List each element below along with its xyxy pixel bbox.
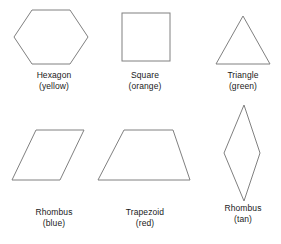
shape-color-trapezoid: (red) (93, 218, 197, 229)
shape-name-square: Square (93, 70, 197, 81)
shape-rhombus-blue (10, 128, 86, 182)
narrow-diamond-outline-icon (222, 103, 262, 203)
caption-triangle: Triangle (green) (190, 70, 281, 91)
shape-name-rhombus-blue: Rhombus (0, 207, 108, 218)
shape-name-triangle: Triangle (190, 70, 281, 81)
caption-rhombus-tan: Rhombus (tan) (190, 203, 281, 224)
shape-chart: Hexagon (yellow) Square (orange) Triangl… (0, 0, 281, 244)
caption-rhombus-blue: Rhombus (blue) (0, 207, 108, 228)
shape-color-triangle: (green) (190, 81, 281, 92)
parallelogram-outline-icon (10, 128, 86, 182)
shape-hexagon (12, 8, 90, 66)
shape-square (120, 11, 172, 63)
shape-name-hexagon: Hexagon (0, 70, 108, 81)
trapezoid-outline-icon (96, 128, 192, 182)
shape-name-trapezoid: Trapezoid (93, 207, 197, 218)
shape-trapezoid (96, 128, 192, 182)
shape-color-rhombus-blue: (blue) (0, 218, 108, 229)
caption-trapezoid: Trapezoid (red) (93, 207, 197, 228)
shape-triangle (214, 14, 272, 66)
caption-square: Square (orange) (93, 70, 197, 91)
shape-color-hexagon: (yellow) (0, 81, 108, 92)
square-outline-icon (120, 11, 172, 63)
hexagon-outline-icon (12, 8, 90, 66)
shape-rhombus-tan (222, 103, 262, 203)
caption-hexagon: Hexagon (yellow) (0, 70, 108, 91)
shape-name-rhombus-tan: Rhombus (190, 203, 281, 214)
shape-color-rhombus-tan: (tan) (190, 214, 281, 225)
triangle-outline-icon (214, 14, 272, 66)
shape-color-square: (orange) (93, 81, 197, 92)
